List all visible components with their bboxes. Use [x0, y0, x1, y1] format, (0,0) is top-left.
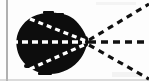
focal-point-node — [85, 40, 89, 44]
figure-container: Scanned black-and-white figure: a solid … — [0, 0, 149, 81]
ray-convergence-figure — [0, 0, 149, 81]
